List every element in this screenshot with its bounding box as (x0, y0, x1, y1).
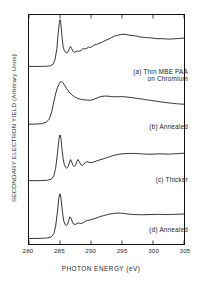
curve-label-line: (c) Thicker (156, 176, 188, 183)
nexafs-figure: SECONDARY ELECTRON YIELD (Arbitrary Unit… (0, 0, 202, 289)
curve-label-line: (d) Annealed (149, 226, 188, 233)
x-tick-label-305: 305 (180, 247, 191, 254)
x-tick-label-280: 280 (23, 247, 34, 254)
x-axis-title: PHOTON ENERGY (eV) (0, 265, 202, 272)
curve-label-line: (a) Thin MBE PAA (133, 68, 188, 75)
y-axis-title: SECONDARY ELECTRON YIELD (Arbitrary Unit… (10, 13, 24, 243)
curve-label-d: (d) Annealed (149, 226, 188, 233)
curve-label-b: (b) Annealed (149, 123, 188, 130)
curve-label-a: (a) Thin MBE PAAon Chromium (133, 68, 188, 82)
x-tick-label-285: 285 (54, 247, 65, 254)
spectrum-curve-b (29, 82, 184, 125)
curve-label-line: (b) Annealed (149, 123, 188, 130)
spectrum-curve-c (29, 135, 184, 181)
spectrum-curve-a (29, 20, 184, 67)
x-tick-label-295: 295 (117, 247, 128, 254)
x-tick-label-300: 300 (148, 247, 159, 254)
x-tick-label-290: 290 (85, 247, 96, 254)
curve-label-line: on Chromium (133, 75, 188, 82)
curve-label-c: (c) Thicker (156, 176, 188, 183)
